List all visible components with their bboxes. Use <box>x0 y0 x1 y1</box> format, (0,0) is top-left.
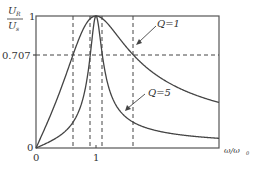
x-tick-label-1: 1 <box>93 152 99 163</box>
y-tick-label-707: 0.707 <box>2 50 31 61</box>
y-label-denominator-sub: s <box>16 25 19 32</box>
q5-label: Q=5 <box>148 87 171 98</box>
x-axis-label-sub: 0 <box>246 150 250 156</box>
q5-arrow <box>125 94 145 111</box>
resonance-chart: U R U s 1 0.707 0 0 1 ω/ω 0 Q=1 Q=5 <box>0 0 253 174</box>
curve-q1 <box>36 16 219 148</box>
q1-label: Q=1 <box>157 18 180 29</box>
y-label-numerator-sub: R <box>15 10 21 17</box>
bandwidth-lines <box>73 16 133 148</box>
x-axis-label: ω/ω <box>224 146 240 155</box>
y-tick-label-1: 1 <box>29 11 35 22</box>
x-tick-label-0: 0 <box>33 152 39 163</box>
q1-arrow <box>136 26 156 45</box>
